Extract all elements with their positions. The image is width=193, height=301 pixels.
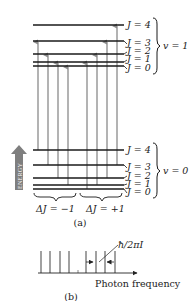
upper-band-levels	[33, 25, 124, 66]
j-label: J = 0	[125, 186, 151, 197]
lower-j-labels: J = 4 J = 3 J = 2 J = 1 J = 0	[125, 144, 151, 197]
branch-label-plus: ΔJ = +1	[85, 203, 125, 214]
caption-b: (b)	[64, 291, 78, 301]
lower-band-levels	[33, 150, 124, 189]
rotational-vibrational-diagram: J = 4 J = 3 J = 2 J = 1 J = 0 v = 1 J = …	[0, 0, 193, 301]
frequency-axis-label: Photon frequency	[95, 278, 181, 289]
j-label: J = 0	[125, 62, 151, 73]
j-label: J = 4	[125, 144, 151, 155]
upper-brace	[153, 18, 160, 74]
energy-arrow-icon: ENERGY	[11, 145, 27, 190]
lower-brace	[153, 143, 160, 198]
v0-label: v = 0	[163, 165, 188, 176]
upper-j-labels: J = 4 J = 3 J = 2 J = 1 J = 0	[125, 19, 151, 73]
branch-label-minus: ΔJ = −1	[35, 203, 75, 214]
caption-a: (a)	[73, 217, 86, 228]
spectrum-lines	[41, 251, 115, 273]
j-label: J = 4	[125, 19, 151, 30]
spacing-label: ħ/2πI	[118, 239, 144, 250]
v1-label: v = 1	[163, 40, 188, 51]
energy-label: ENERGY	[17, 163, 23, 189]
branch-brace-minus	[34, 193, 76, 201]
branch-brace-plus	[80, 193, 122, 201]
